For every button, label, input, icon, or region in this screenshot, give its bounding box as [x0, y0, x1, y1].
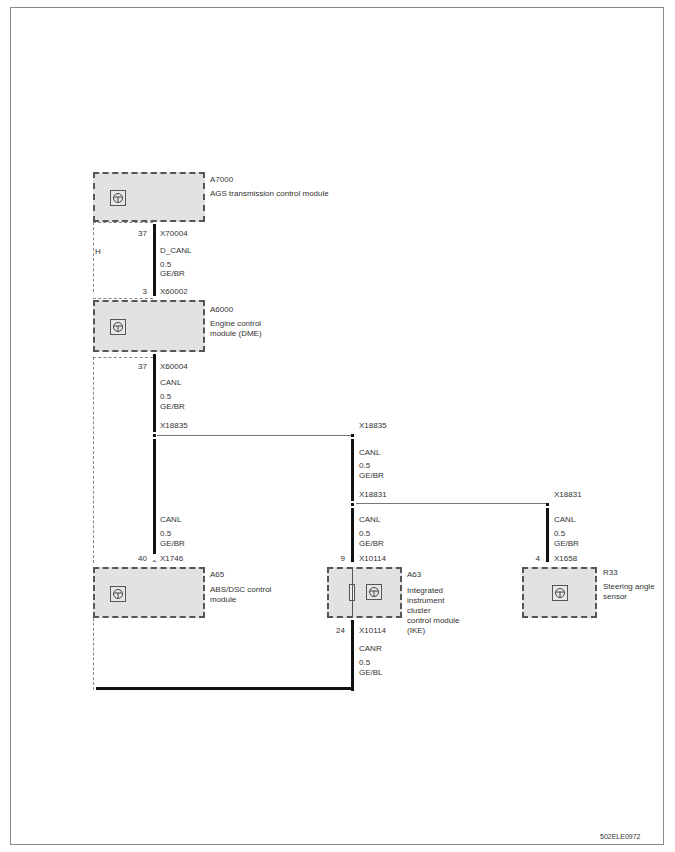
wire-color: GE/BR [554, 538, 579, 549]
signal-label: CANL [359, 514, 380, 525]
module-name-a6000-line2: module (DME) [210, 328, 262, 339]
module-a6000[interactable] [93, 300, 205, 352]
module-id-r33: R33 [603, 567, 618, 578]
pin-number: 3 [127, 286, 147, 297]
splice-label: X18831 [359, 489, 387, 500]
side-label: H [95, 246, 101, 257]
connector-caret: ⌄ [151, 221, 158, 229]
shield-outline-top-2 [93, 357, 153, 358]
module-id-a63: A63 [407, 569, 421, 580]
shield-outline-left-3 [93, 618, 94, 690]
wire-color: GE/BR [160, 538, 185, 549]
wire-canl[interactable] [351, 508, 354, 562]
splice-point [546, 503, 549, 506]
splice-line [356, 503, 548, 504]
module-id-a7000: A7000 [210, 174, 233, 185]
splice-point [351, 434, 354, 437]
ecu-icon [110, 586, 126, 602]
module-name-a65-line2: module [210, 594, 236, 605]
wire-canl[interactable] [546, 508, 549, 562]
pin-number: 24 [325, 625, 345, 636]
pin-number: 40 [127, 553, 147, 564]
module-id-a65: A65 [210, 569, 224, 580]
connector-label: X10114 [359, 553, 386, 564]
shield-outline-left-2 [93, 357, 94, 563]
connector-label: X70004 [160, 228, 188, 239]
module-name-r33-line2: sensor [603, 591, 627, 602]
wire-d-canl[interactable] [153, 224, 156, 296]
pin-number: 37 [127, 361, 147, 372]
connector-label: X60004 [160, 361, 188, 372]
splice-point [153, 434, 156, 437]
wire-canr-return[interactable] [96, 687, 354, 690]
ecu-icon [366, 584, 382, 600]
module-id-a6000: A6000 [210, 304, 233, 315]
shield-outline-top [93, 222, 153, 223]
signal-label: CANR [359, 643, 382, 654]
wire-color: GE/BR [359, 538, 384, 549]
module-r33[interactable] [522, 567, 597, 618]
module-a65[interactable] [93, 567, 205, 618]
signal-label: D_CANL [160, 245, 192, 256]
signal-label: CANL [160, 377, 181, 388]
module-a63[interactable] [327, 567, 402, 618]
connector-label: X10114 [359, 625, 386, 636]
connector-label: X1658 [554, 553, 577, 564]
pin-number: 37 [127, 228, 147, 239]
diagram-frame [10, 7, 664, 845]
wire-color: GE/BR [359, 470, 384, 481]
wire-canl[interactable] [153, 439, 156, 554]
shield-outline-bottom [93, 298, 153, 299]
signal-label: CANL [160, 514, 181, 525]
splice-label: X18831 [554, 489, 582, 500]
wire-color: GE/BR [160, 268, 185, 279]
splice-line [157, 435, 353, 436]
shield-outline-left [93, 222, 94, 292]
wire-color: GE/BL [359, 667, 383, 678]
connector-label: X1746 [160, 553, 183, 564]
ecu-icon [110, 190, 126, 206]
signal-label: CANL [359, 447, 380, 458]
wire-canl[interactable] [153, 354, 156, 432]
diagram-ref-code: 502ELE0972 [600, 831, 640, 842]
splice-label: X18835 [160, 420, 188, 431]
ecu-icon [552, 585, 568, 601]
module-name-a7000: AGS transmission control module [210, 188, 329, 199]
signal-label: CANL [554, 514, 575, 525]
pin-number: 9 [325, 553, 345, 564]
ecu-icon [110, 319, 126, 335]
pin-number: 4 [520, 553, 540, 564]
connector-label: X60002 [160, 286, 188, 297]
internal-line [352, 567, 353, 618]
splice-point [351, 503, 354, 506]
module-name-a63-line5: (IKE) [407, 625, 425, 636]
wire-color: GE/BR [160, 401, 185, 412]
wire-canl[interactable] [351, 439, 354, 501]
connector-caret: ⌄ [151, 351, 158, 359]
module-a7000[interactable] [93, 172, 205, 222]
wire-canr[interactable] [351, 620, 354, 691]
splice-label: X18835 [359, 420, 387, 431]
